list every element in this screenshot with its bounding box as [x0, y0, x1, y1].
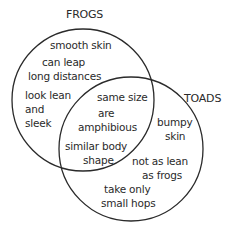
toads-item-bumpy-line2: skin	[165, 130, 185, 143]
frogs-item-smooth-skin: smooth skin	[50, 39, 112, 52]
both-item-same-size: same size	[97, 91, 148, 104]
toads-item-lean-line1: not as lean	[132, 155, 188, 168]
frogs-item-lean-line1: look lean	[25, 89, 71, 102]
toads-item-hops-line1: take only	[104, 183, 150, 196]
both-item-amphibious-line2: amphibious	[78, 121, 137, 134]
frogs-item-leap-line1: can leap	[42, 56, 85, 69]
toads-item-hops-line2: small hops	[101, 197, 156, 210]
both-item-body-shape-line2: shape	[83, 154, 114, 167]
frogs-item-lean-line3: sleek	[25, 117, 51, 130]
toads-item-bumpy-line1: bumpy	[157, 116, 192, 129]
toads-item-lean-line2: as frogs	[142, 169, 182, 182]
frogs-item-lean-line2: and	[25, 103, 44, 116]
toads-title: TOADS	[184, 92, 221, 105]
frogs-title: FROGS	[66, 8, 103, 21]
both-item-amphibious-line1: are	[98, 107, 114, 120]
frogs-item-leap-line2: long distances	[28, 70, 101, 83]
both-item-body-shape-line1: similar body	[65, 140, 127, 153]
